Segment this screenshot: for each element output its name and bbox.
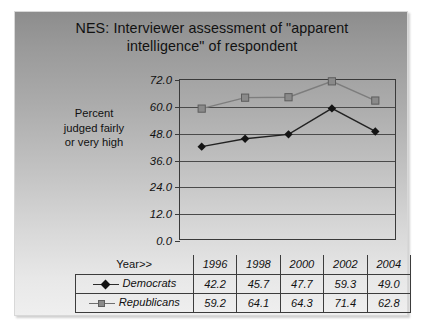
cell-republicans-1996: 59.2 [193, 293, 236, 312]
y-axis-title-line-2: judged fairly [39, 121, 149, 136]
chart-title-line-2: intelligence" of respondent [35, 37, 389, 55]
legend-marker-square-icon [89, 299, 115, 309]
chart-title: NES: Interviewer assessment of "apparent… [35, 19, 389, 55]
cell-republicans-2000: 64.3 [280, 293, 323, 312]
cell-democrats-1996: 42.2 [193, 274, 236, 293]
year-header-2004: 2004 [367, 255, 410, 274]
y-axis-title-line-1: Percent [39, 106, 149, 121]
cell-democrats-2000: 47.7 [280, 274, 323, 293]
series-name-text: Democrats [123, 277, 177, 289]
legend-marker-diamond-icon [93, 280, 119, 290]
data-point-republicans-1996 [198, 105, 205, 112]
plot-wrapper: 0.012.024.036.048.060.072.0 [179, 79, 396, 251]
y-tick-label: 36.0 [150, 155, 172, 167]
year-header-label: Year>> [76, 255, 194, 274]
y-tick-label: 12.0 [150, 208, 172, 220]
data-point-democrats-2002 [328, 104, 336, 112]
cell-democrats-2002: 59.3 [324, 274, 367, 293]
year-header-1998: 1998 [237, 255, 280, 274]
y-tick-label: 72.0 [150, 74, 172, 86]
data-point-democrats-2004 [371, 127, 379, 135]
series-label-democrats: Democrats [76, 274, 194, 293]
series-name-text: Republicans [119, 296, 180, 308]
year-header-2002: 2002 [324, 255, 367, 274]
data-point-republicans-2000 [285, 94, 292, 101]
slide-frame: NES: Interviewer assessment of "apparent… [14, 11, 408, 316]
cell-democrats-2004: 49.0 [367, 274, 410, 293]
data-point-democrats-1998 [241, 135, 249, 143]
data-point-republicans-1998 [242, 94, 249, 101]
data-point-democrats-2000 [284, 130, 292, 138]
data-point-democrats-1996 [198, 142, 206, 150]
cell-republicans-2002: 71.4 [324, 293, 367, 312]
cell-republicans-1998: 64.1 [237, 293, 280, 312]
y-axis-title: Percent judged fairly or very high [39, 106, 149, 150]
data-point-republicans-2002 [328, 78, 335, 85]
series-layer [180, 80, 397, 241]
y-axis-title-line-3: or very high [39, 135, 149, 150]
cell-republicans-2004: 62.8 [367, 293, 410, 312]
table-row: Republicans59.264.164.371.462.8 [76, 293, 411, 312]
plot-area: 0.012.024.036.048.060.072.0 [179, 79, 396, 240]
y-tick-label: 60.0 [150, 101, 172, 113]
series-label-republicans: Republicans [76, 293, 194, 312]
y-tick-label: 24.0 [150, 181, 172, 193]
table-header-row: Year>> 19961998200020022004 [76, 255, 411, 274]
y-tick-label: 0.0 [156, 235, 172, 247]
chart-title-line-1: NES: Interviewer assessment of "apparent [35, 19, 389, 37]
y-tick-label: 48.0 [150, 128, 172, 140]
year-header-2000: 2000 [280, 255, 323, 274]
y-tick-mark [175, 241, 180, 242]
cell-democrats-1998: 45.7 [237, 274, 280, 293]
table-body: Democrats42.245.747.759.349.0Republicans… [76, 274, 411, 312]
series-line-democrats [202, 108, 376, 146]
year-header-1996: 1996 [193, 255, 236, 274]
data-table: Year>> 19961998200020022004 Democrats42.… [75, 255, 411, 313]
table-row: Democrats42.245.747.759.349.0 [76, 274, 411, 293]
data-point-republicans-2004 [372, 97, 379, 104]
